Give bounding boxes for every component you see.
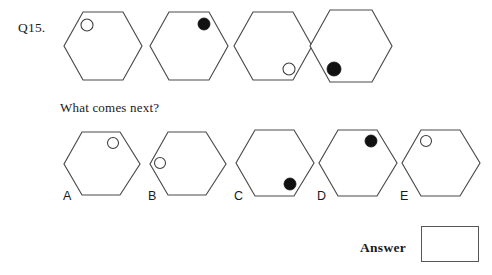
sequence-figure-4 (308, 8, 394, 84)
open-circle-icon (108, 138, 119, 149)
hexagon-shape (319, 130, 397, 196)
filled-circle-icon (327, 62, 341, 76)
option-figure-e[interactable] (400, 128, 482, 198)
open-circle-icon (155, 158, 166, 169)
sequence-figure-2 (148, 10, 230, 82)
option-label-e: E (400, 190, 408, 203)
hexagon-shape (64, 12, 142, 80)
answer-label: Answer (360, 240, 406, 256)
option-label-b: B (148, 190, 156, 203)
worksheet-page: Q15. What comes next? A (0, 0, 492, 275)
option-figure-b[interactable] (148, 130, 228, 197)
sequence-figure-1 (62, 10, 144, 82)
hexagon-shape (234, 12, 312, 80)
option-label-c: C (234, 190, 243, 203)
open-circle-icon (283, 63, 295, 75)
question-number: Q15. (18, 20, 45, 36)
open-circle-icon (81, 19, 93, 31)
option-figure-d[interactable] (317, 128, 399, 198)
filled-circle-icon (198, 18, 210, 30)
hexagon-shape (310, 10, 392, 82)
option-figure-c[interactable] (234, 128, 316, 198)
hexagon-shape (402, 130, 480, 196)
filled-circle-icon (365, 135, 377, 147)
hexagon-shape (64, 132, 140, 195)
sequence-figure-3 (232, 10, 314, 82)
answer-input-box[interactable] (421, 226, 479, 262)
hexagon-shape (236, 130, 314, 196)
option-figure-a[interactable] (62, 130, 142, 197)
option-label-a: A (63, 190, 71, 203)
option-label-d: D (317, 190, 326, 203)
open-circle-icon (421, 136, 432, 147)
prompt-text: What comes next? (60, 100, 159, 116)
hexagon-shape (150, 12, 228, 80)
filled-circle-icon (284, 178, 296, 190)
